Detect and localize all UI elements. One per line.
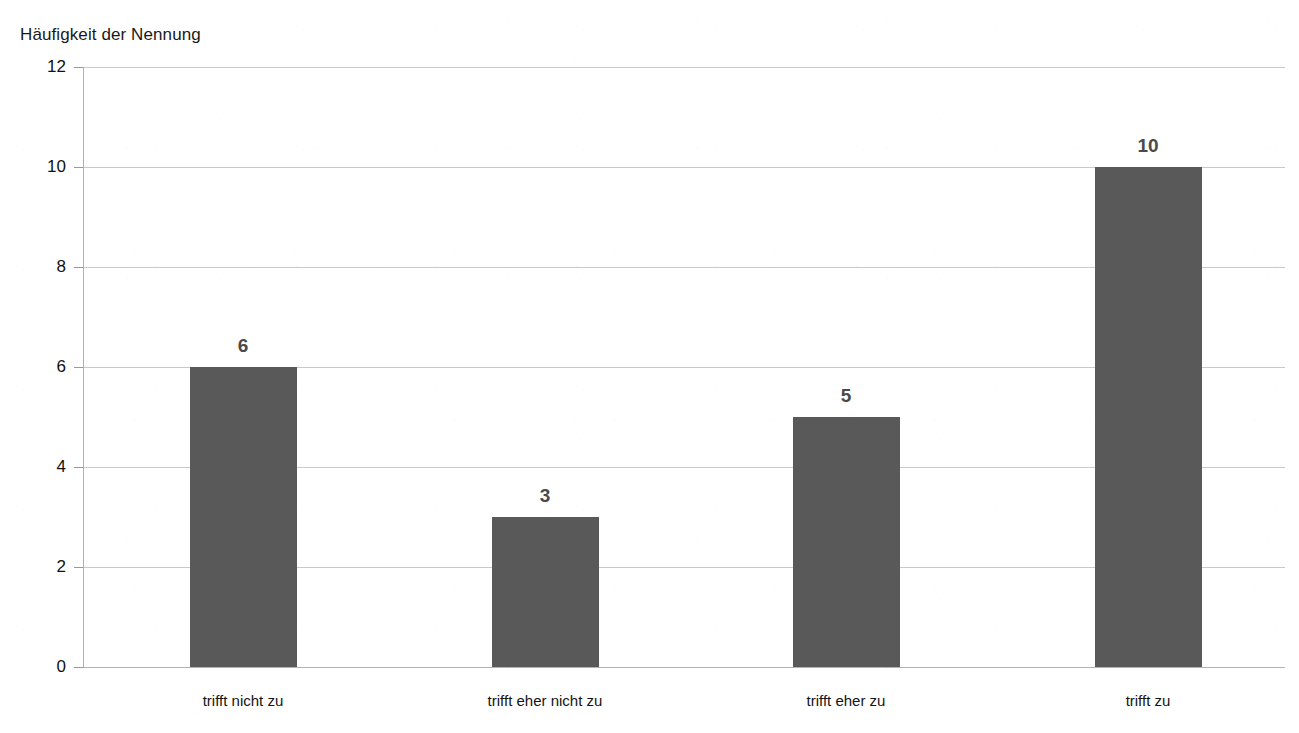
y-tick-label-10: 10 xyxy=(12,157,66,177)
y-axis-line xyxy=(83,67,84,668)
bar xyxy=(1095,167,1202,667)
y-tick-mark-12 xyxy=(74,67,83,68)
y-tick-mark-0 xyxy=(74,667,83,668)
y-tick-mark-4 xyxy=(74,467,83,468)
bar-value-label: 5 xyxy=(841,385,852,407)
y-tick-mark-2 xyxy=(74,567,83,568)
y-tick-mark-10 xyxy=(74,167,83,168)
y-axis-title: Häufigkeit der Nennung xyxy=(20,25,201,45)
gridline-0 xyxy=(83,667,1285,668)
y-tick-label-4: 4 xyxy=(12,457,66,477)
gridline-12 xyxy=(83,67,1285,68)
y-tick-label-6: 6 xyxy=(12,357,66,377)
bar-value-label: 3 xyxy=(540,485,551,507)
bar-value-label: 10 xyxy=(1137,135,1158,157)
x-axis-label: trifft eher zu xyxy=(807,692,886,709)
x-axis-label: trifft nicht zu xyxy=(203,692,284,709)
x-axis-label: trifft zu xyxy=(1126,692,1171,709)
bar-chart: Häufigkeit der Nennung 024681012 63510 t… xyxy=(0,0,1299,733)
bar-value-label: 6 xyxy=(238,335,249,357)
y-tick-label-12: 12 xyxy=(12,57,66,77)
y-tick-label-0: 0 xyxy=(12,657,66,677)
y-tick-label-8: 8 xyxy=(12,257,66,277)
bar xyxy=(793,417,900,667)
cropped-title-remnant xyxy=(0,0,1299,9)
y-tick-mark-8 xyxy=(74,267,83,268)
y-tick-mark-6 xyxy=(74,367,83,368)
y-tick-label-2: 2 xyxy=(12,557,66,577)
x-axis-label: trifft eher nicht zu xyxy=(488,692,603,709)
bar xyxy=(492,517,599,667)
bar xyxy=(190,367,297,667)
